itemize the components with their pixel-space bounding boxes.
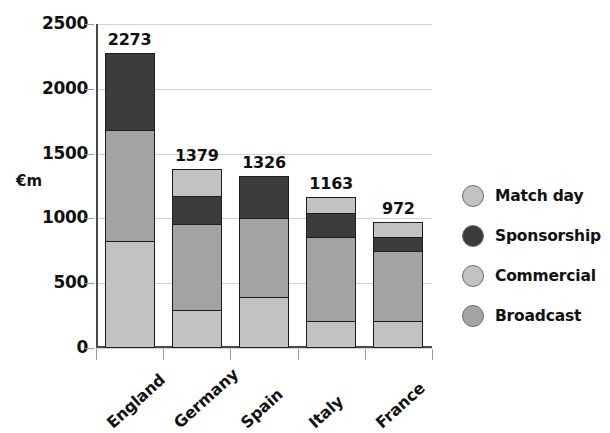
x-tick-mark (298, 349, 299, 360)
bar-segment-sponsorship[interactable] (106, 54, 154, 130)
bar-segment-broadcast[interactable] (374, 322, 422, 347)
y-tick-mark (85, 218, 94, 219)
stacked-bar[interactable] (373, 222, 423, 348)
y-tick-mark (85, 154, 94, 155)
x-tick-mark (163, 349, 164, 360)
legend-label: Broadcast (495, 307, 581, 325)
bar-total-label: 1163 (271, 174, 391, 193)
legend: Match daySponsorshipCommercialBroadcast (462, 176, 610, 336)
bar-segment-match-day[interactable] (374, 223, 422, 238)
legend-item-broadcast[interactable]: Broadcast (462, 296, 610, 336)
bar-total-label: 972 (338, 199, 458, 218)
stacked-bar[interactable] (172, 169, 222, 348)
stacked-bar[interactable] (239, 176, 289, 348)
legend-label: Match day (495, 187, 583, 205)
x-axis-label-italy: Italy (305, 392, 347, 432)
x-tick-mark (365, 349, 366, 360)
legend-swatch-icon (462, 185, 484, 207)
bar-segment-commercial[interactable] (307, 238, 355, 322)
bar-segment-broadcast[interactable] (307, 322, 355, 347)
y-tick-label: 500 (53, 272, 88, 292)
bar-total-label: 1326 (204, 153, 324, 172)
bar-group[interactable] (105, 24, 155, 348)
x-tick-mark (96, 349, 97, 360)
y-tick-mark (85, 24, 94, 25)
bar-total-label: 2273 (70, 30, 190, 49)
y-tick-label: 1500 (42, 143, 88, 163)
legend-label: Sponsorship (495, 227, 601, 245)
x-axis-label-england: England (103, 370, 169, 432)
y-tick-label: 0 (76, 337, 88, 357)
y-axis-labels: 05001000150020002500 (0, 24, 88, 348)
legend-label: Commercial (495, 267, 596, 285)
x-axis-label-spain: Spain (237, 385, 287, 432)
x-axis-label-germany: Germany (170, 365, 242, 432)
legend-swatch-icon (462, 225, 484, 247)
y-tick-label: 1000 (42, 207, 88, 227)
chart-canvas: €m 05001000150020002500 EnglandGermanySp… (0, 0, 610, 433)
y-tick-mark (85, 89, 94, 90)
stacked-bar[interactable] (105, 53, 155, 348)
bar-segment-sponsorship[interactable] (173, 197, 221, 225)
x-tick-mark (230, 349, 231, 360)
legend-item-match-day[interactable]: Match day (462, 176, 610, 216)
bar-segment-commercial[interactable] (374, 252, 422, 322)
bar-segment-broadcast[interactable] (173, 311, 221, 347)
x-tick-mark (432, 349, 433, 360)
bar-segment-commercial[interactable] (240, 219, 288, 298)
y-tick-mark (85, 283, 94, 284)
stacked-bar[interactable] (306, 197, 356, 348)
x-axis-label-france: France (372, 378, 429, 432)
bar-segment-match-day[interactable] (173, 170, 221, 197)
legend-item-sponsorship[interactable]: Sponsorship (462, 216, 610, 256)
bar-group[interactable] (172, 24, 222, 348)
bar-segment-broadcast[interactable] (106, 242, 154, 347)
gridline (96, 348, 432, 349)
bar-segment-broadcast[interactable] (240, 298, 288, 347)
legend-item-commercial[interactable]: Commercial (462, 256, 610, 296)
y-tick-mark (85, 348, 94, 349)
legend-swatch-icon (462, 265, 484, 287)
y-tick-label: 2000 (42, 78, 88, 98)
legend-swatch-icon (462, 305, 484, 327)
bar-segment-sponsorship[interactable] (374, 238, 422, 253)
bar-segment-commercial[interactable] (173, 225, 221, 311)
